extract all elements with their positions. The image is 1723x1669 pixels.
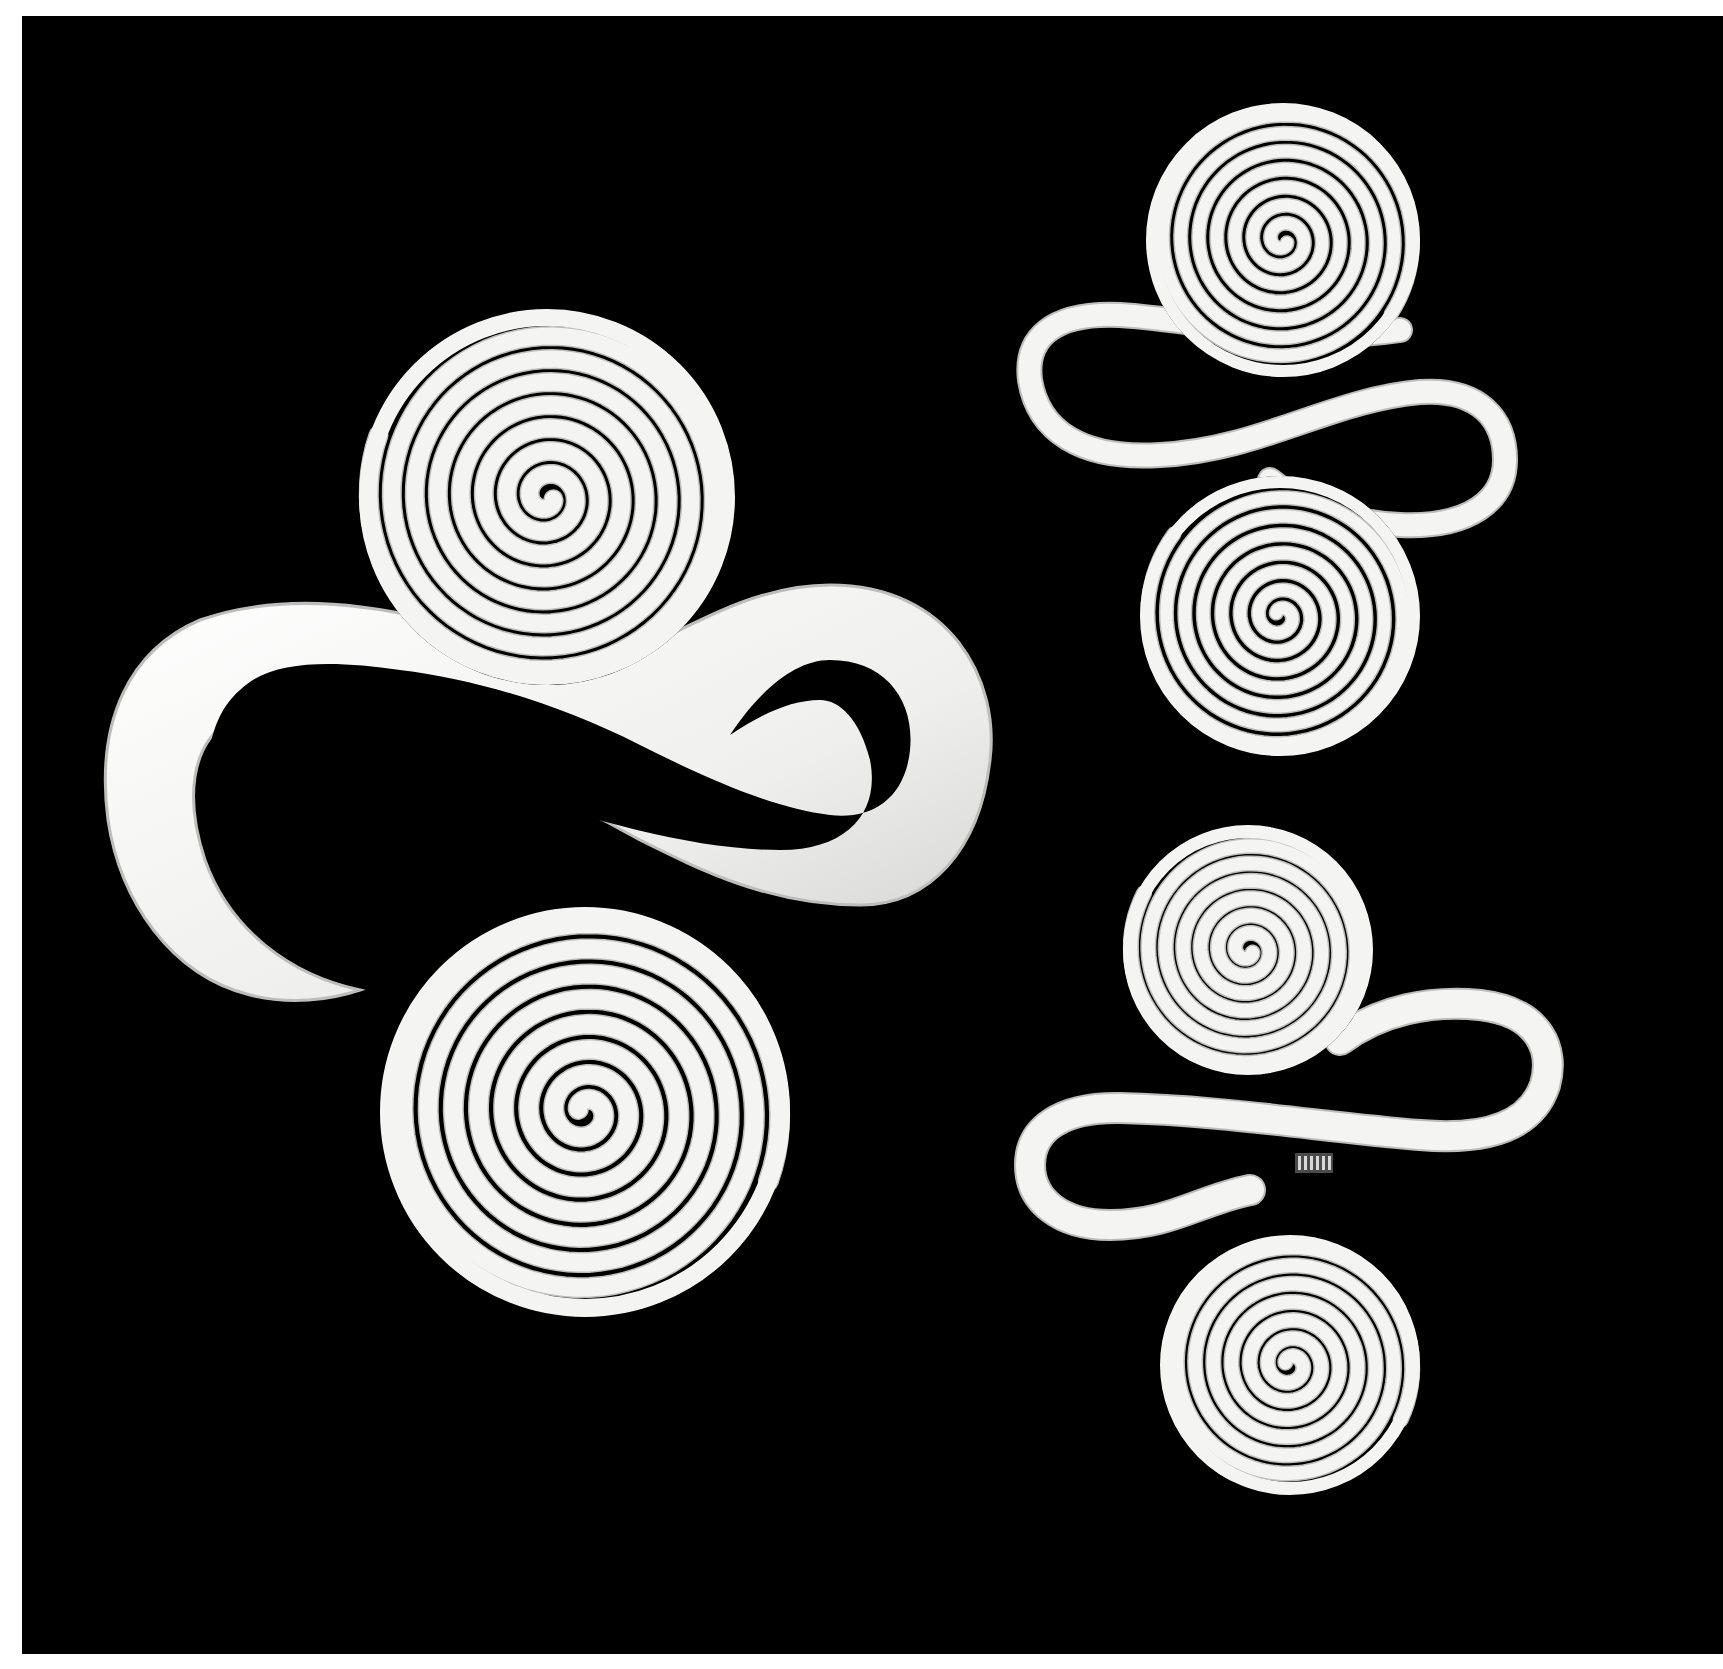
large-double-spiral [105,309,991,1317]
hallmark-stamp-icon [1295,1153,1333,1173]
small-double-spiral-bottom [1030,825,1548,1495]
ornament-photograph [0,0,1723,1669]
small-double-spiral-top [1029,103,1505,756]
